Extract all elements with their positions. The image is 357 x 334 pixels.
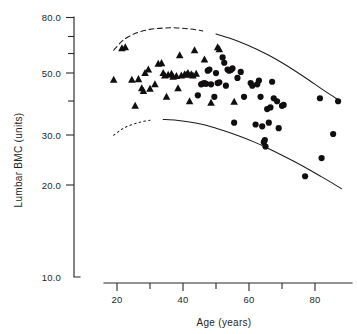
data-point-circle xyxy=(253,121,259,127)
data-point-triangle xyxy=(145,65,153,72)
data-point-triangle xyxy=(135,75,143,82)
data-point-circle xyxy=(231,120,237,126)
data-point-circle xyxy=(262,143,268,149)
data-point-circle xyxy=(266,120,272,126)
data-point-circle xyxy=(221,60,227,66)
data-point-triangle xyxy=(110,76,118,83)
data-points xyxy=(110,43,341,179)
data-point-circle xyxy=(262,137,268,143)
data-point-triangle xyxy=(131,102,139,109)
x-axis: 20 40 60 80 Age (years) xyxy=(104,283,352,328)
data-point-circle xyxy=(257,94,263,100)
data-point-circle xyxy=(229,65,235,71)
data-point-circle xyxy=(259,123,265,129)
data-point-circle xyxy=(238,69,244,75)
data-point-circle xyxy=(234,75,240,81)
x-axis-ticks xyxy=(117,283,315,291)
x-tick-label-60: 60 xyxy=(244,294,255,305)
x-tick-label-40: 40 xyxy=(178,294,189,305)
data-point-circle xyxy=(211,94,217,100)
y-tick-label-50: 50.0 xyxy=(42,68,61,79)
data-point-circle xyxy=(256,77,262,83)
data-point-circle xyxy=(330,131,336,137)
data-point-circle xyxy=(269,79,275,85)
data-point-triangle xyxy=(176,51,184,58)
data-point-circle xyxy=(208,81,214,87)
data-point-circle xyxy=(319,155,325,161)
data-point-circle xyxy=(213,70,219,76)
data-point-circle xyxy=(216,79,222,85)
data-point-circle xyxy=(276,125,282,131)
data-point-circle xyxy=(335,98,341,104)
data-point-circle xyxy=(281,102,287,108)
x-axis-title: Age (years) xyxy=(197,317,252,328)
x-tick-label-80: 80 xyxy=(310,294,321,305)
y-axis-title: Lumbar BMC (units) xyxy=(13,113,24,208)
reference-curves xyxy=(114,28,342,189)
data-point-circle xyxy=(206,66,212,72)
data-point-circle xyxy=(195,92,201,98)
data-point-circle xyxy=(302,173,308,179)
data-point-triangle xyxy=(128,76,136,83)
data-point-triangle xyxy=(151,80,159,87)
data-point-triangle xyxy=(186,97,194,104)
y-tick-label-10: 10.0 xyxy=(42,272,61,283)
y-axis-line xyxy=(74,17,80,277)
data-point-circle xyxy=(317,95,323,101)
data-point-triangle xyxy=(201,55,209,62)
lumbar-bmc-age-scatter-chart: 80.0 50.0 30.0 20.0 10.0 Lumbar BMC (uni… xyxy=(0,0,357,334)
y-tick-label-80: 80.0 xyxy=(42,12,61,23)
data-point-circle xyxy=(241,94,247,100)
x-tick-label-20: 20 xyxy=(112,294,123,305)
data-point-triangle xyxy=(163,93,171,100)
y-axis-ticks xyxy=(66,18,74,186)
data-point-circle xyxy=(267,104,273,110)
data-point-circle xyxy=(220,54,226,60)
lower-reference-curve-solid-part xyxy=(163,119,341,188)
chart-svg: 80.0 50.0 30.0 20.0 10.0 Lumbar BMC (uni… xyxy=(0,0,357,334)
y-tick-label-20: 20.0 xyxy=(42,180,61,191)
lower-reference-curve-dotted-part xyxy=(114,120,150,135)
data-point-circle xyxy=(274,98,280,104)
data-point-triangle xyxy=(174,84,182,91)
data-point-triangle xyxy=(191,46,199,53)
y-axis: 80.0 50.0 30.0 20.0 10.0 Lumbar BMC (uni… xyxy=(13,12,80,283)
y-tick-label-30: 30.0 xyxy=(42,130,61,141)
data-point-circle xyxy=(223,83,229,89)
data-point-triangle xyxy=(230,98,238,105)
